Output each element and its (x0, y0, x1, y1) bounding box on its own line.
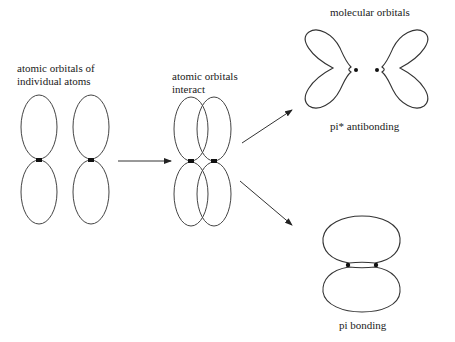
nucleus-1 (36, 158, 42, 162)
bonding-nucleus-left (346, 263, 350, 267)
antibonding-nucleus-right (375, 68, 379, 72)
antibonding-lobe-left (305, 30, 351, 108)
arrow-to-bonding (240, 181, 292, 225)
nucleus-4 (211, 159, 217, 163)
antibonding-nucleus-left (354, 68, 358, 72)
arrow-to-antibonding (242, 110, 292, 143)
bonding-nucleus-right (374, 263, 378, 267)
nucleus-2 (88, 158, 94, 162)
bonding-lobe-top (323, 216, 400, 263)
interacting-orbitals (174, 97, 231, 226)
bonding-lobe-bottom (323, 267, 400, 312)
antibonding-lobe-right (382, 30, 428, 108)
nucleus-3 (188, 159, 194, 163)
orbital-graphics (0, 0, 455, 342)
orbital-diagram: atomic orbitals of individual atoms atom… (0, 0, 455, 342)
